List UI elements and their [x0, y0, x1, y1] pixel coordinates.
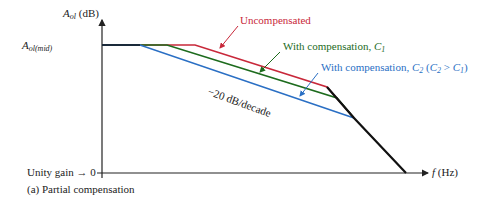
uncompensated-pointer-arrow — [220, 26, 238, 48]
y-axis-label-unit: (dB) — [76, 7, 99, 19]
c1-label-sub: 1 — [381, 45, 385, 54]
y-axis-label: Aol (dB) — [63, 8, 99, 21]
c2-paren-close: ) — [464, 61, 468, 73]
c2-cmp-op: > — [441, 61, 453, 73]
curve-uncompensated — [102, 45, 354, 118]
c2-cmp-var1: C — [430, 61, 437, 73]
midband-gain-sub: ol(mid) — [29, 44, 53, 53]
c1-label-text: With compensation, — [283, 40, 374, 52]
unity-gain-label: Unity gain → 0 — [27, 167, 96, 178]
x-axis-label: f (Hz) — [432, 167, 458, 178]
final-rolloff-line — [327, 87, 406, 173]
x-axis-label-unit: (Hz) — [435, 166, 458, 178]
c2-cmp-var2: C — [453, 61, 460, 73]
y-axis-label-var: A — [63, 7, 70, 19]
compensation-c2-label: With compensation, C2 (C2 > C1) — [321, 62, 468, 75]
midband-gain-var: A — [22, 39, 29, 51]
c2-pointer-arrow — [300, 73, 318, 96]
figure-caption: (a) Partial compensation — [27, 184, 135, 195]
midband-gain-label: Aol(mid) — [22, 40, 52, 53]
uncompensated-label: Uncompensated — [240, 15, 311, 26]
c2-label-text: With compensation, — [321, 61, 412, 73]
compensation-c1-label: With compensation, C1 — [283, 41, 385, 54]
